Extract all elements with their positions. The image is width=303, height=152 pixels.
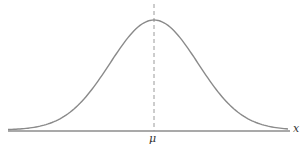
bell-curve [8, 20, 288, 130]
mean-label: μ [149, 132, 156, 145]
normal-curve-diagram [0, 0, 303, 152]
x-axis-label: x [293, 122, 299, 135]
